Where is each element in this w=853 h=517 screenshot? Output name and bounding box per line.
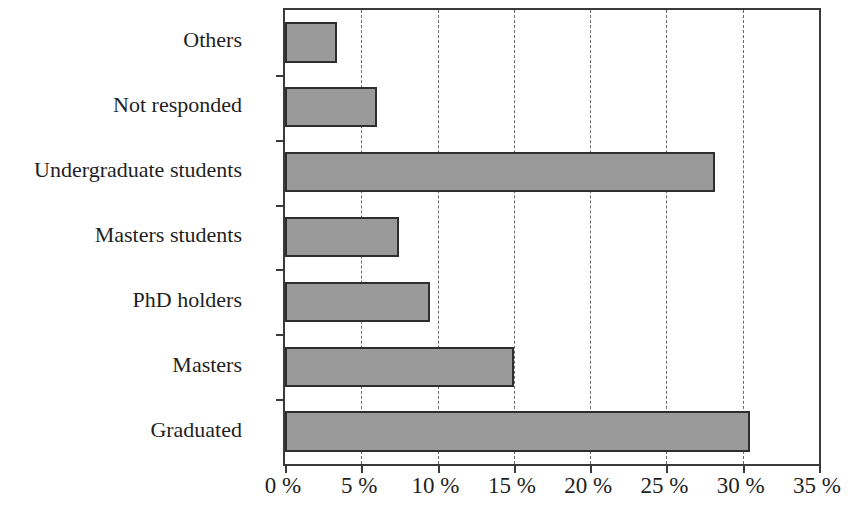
x-axis-tick-label: 30 % [717,474,765,497]
gridline-15 [514,10,515,464]
gridline-30 [743,10,744,464]
plot-area [283,8,821,466]
category-label: Undergraduate students [34,159,242,181]
bar [285,217,399,257]
y-axis-tick [276,269,285,271]
x-axis-tick [514,464,516,473]
category-label: Not responded [113,94,242,116]
x-axis-tick [666,464,668,473]
x-axis-tick [285,464,287,473]
y-axis-tick [276,140,285,142]
x-axis-tick-label: 5 % [341,474,377,497]
category-axis-labels: GraduatedMastersPhD holdersMasters stude… [0,0,262,462]
gridline-25 [666,10,667,464]
x-axis-tick [438,464,440,473]
bar [285,411,750,451]
y-axis-tick [276,399,285,401]
y-axis-tick [276,205,285,207]
category-label: PhD holders [133,289,242,311]
x-axis-tick-label: 10 % [412,474,460,497]
x-axis-tick-label: 20 % [564,474,612,497]
category-label: Graduated [150,419,242,441]
bar [285,282,430,322]
x-axis-tick-label: 25 % [640,474,688,497]
x-axis-tick [819,464,821,473]
x-axis-tick-label: 0 % [265,474,301,497]
category-label: Others [183,29,242,51]
bar [285,152,715,192]
bar [285,87,377,127]
gridline-10 [438,10,439,464]
gridline-20 [590,10,591,464]
x-axis-tick-label: 15 % [488,474,536,497]
category-label: Masters students [95,224,242,246]
x-axis-tick [590,464,592,473]
x-axis-tick [743,464,745,473]
x-axis-tick [361,464,363,473]
y-axis-tick [276,334,285,336]
category-label: Masters [172,354,242,376]
bar-chart: GraduatedMastersPhD holdersMasters stude… [0,0,853,517]
x-axis-tick-label: 35 % [793,474,841,497]
bar [285,347,514,387]
y-axis-tick [276,75,285,77]
bar [285,22,337,62]
